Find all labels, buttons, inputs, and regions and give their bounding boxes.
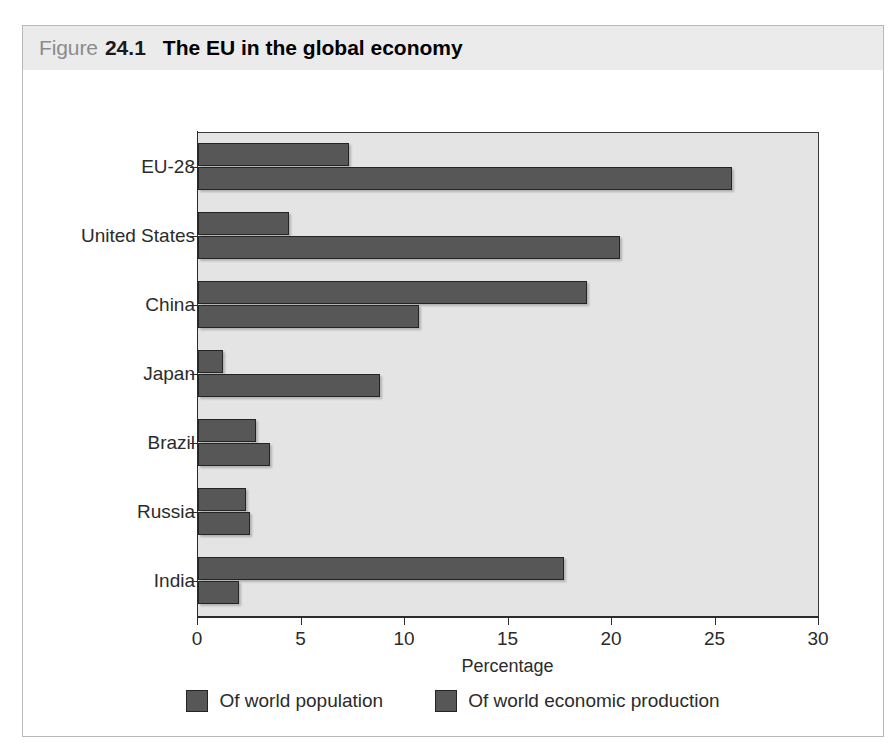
x-axis-tick-label: 30 [807,628,828,650]
chart-canvas: EU-28United StatesChinaJapanBrazilRussia… [23,70,883,736]
figure-title: The EU in the global economy [163,36,463,60]
y-axis-category-label: Russia [137,501,195,523]
x-axis-tick [197,616,198,625]
legend-item[interactable]: Of world economic production [435,690,719,712]
y-axis-category-label: Japan [143,363,195,385]
bar-row: United States [23,201,883,270]
figure-number: 24.1 [105,36,146,60]
bar-economic-production [198,581,239,604]
x-axis-tick [301,616,302,625]
bar-row: Russia [23,477,883,546]
bar-population [198,281,587,304]
x-axis-tick-label: 25 [704,628,725,650]
x-axis-tick [508,616,509,625]
bar-row: Japan [23,339,883,408]
y-axis-tick [190,305,197,306]
y-axis-tick [190,167,197,168]
legend-swatch-icon [435,690,457,712]
figure-title-band: Figure 24.1 The EU in the global economy [23,26,883,70]
x-axis-title: Percentage [197,656,818,677]
y-axis-tick [190,443,197,444]
bar-population [198,488,246,511]
x-axis-tick-label: 5 [295,628,306,650]
y-axis-category-label: Brazil [147,432,195,454]
bar-population [198,143,349,166]
x-axis-tick [611,616,612,625]
y-axis-tick [190,374,197,375]
y-axis-category-label: EU-28 [141,156,195,178]
bar-row: EU-28 [23,132,883,201]
chart-legend: Of world populationOf world economic pro… [23,690,883,712]
bar-economic-production [198,167,732,190]
bar-row: India [23,546,883,615]
bar-economic-production [198,374,380,397]
bar-economic-production [198,512,250,535]
legend-item[interactable]: Of world population [186,690,383,712]
figure-label-word: Figure [39,36,98,60]
bar-population [198,350,223,373]
bar-economic-production [198,236,620,259]
legend-swatch-icon [186,690,208,712]
x-axis-tick [715,616,716,625]
y-axis-tick [190,236,197,237]
bar-row: China [23,270,883,339]
x-axis-tick-label: 0 [192,628,203,650]
y-axis-tick [190,512,197,513]
bar-population [198,212,289,235]
bar-population [198,419,256,442]
y-axis-category-label: China [145,294,195,316]
legend-label: Of world population [219,690,383,712]
x-axis-tick [818,616,819,625]
x-axis-tick-label: 15 [497,628,518,650]
bar-population [198,557,564,580]
bar-economic-production [198,305,419,328]
legend-label: Of world economic production [468,690,719,712]
x-axis-tick [404,616,405,625]
y-axis-tick [190,581,197,582]
bar-row: Brazil [23,408,883,477]
x-axis-tick-label: 10 [393,628,414,650]
y-axis-category-label: India [154,570,195,592]
x-axis-tick-label: 20 [600,628,621,650]
bar-economic-production [198,443,270,466]
figure-frame: Figure 24.1 The EU in the global economy… [22,25,884,737]
y-axis-category-label: United States [81,225,195,247]
